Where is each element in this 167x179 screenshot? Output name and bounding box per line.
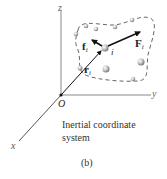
particle: [74, 32, 79, 37]
particle: [130, 18, 135, 23]
system-of-particles-diagram: z y x O Fi fi ri i Inertial coordinate s…: [0, 0, 167, 179]
position-vector-r: [61, 51, 101, 95]
particle: [94, 27, 99, 32]
particle: [138, 59, 145, 66]
position-vector-subscript: i: [89, 69, 91, 77]
particle: [78, 66, 83, 71]
internal-force-vector-f: [92, 40, 102, 46]
y-axis-label: y: [152, 89, 156, 99]
particle-i: [102, 45, 109, 52]
particle: [84, 24, 89, 29]
external-force-symbol: F: [135, 37, 142, 49]
particle: [113, 25, 118, 30]
particle: [103, 66, 110, 73]
particle-i-label: i: [111, 48, 114, 57]
vectors: [61, 32, 140, 95]
diagram-canvas: [0, 0, 167, 179]
external-force-subscript: i: [142, 43, 144, 51]
external-force-label: Fi: [135, 38, 144, 51]
z-axis-label: z: [58, 3, 62, 13]
particle: [131, 77, 136, 82]
subfigure-label: (b): [81, 158, 93, 168]
internal-force-label: fi: [82, 41, 88, 54]
caption-line-1: Inertial coordinate: [62, 120, 136, 130]
internal-force-subscript: i: [86, 46, 88, 54]
x-axis: [19, 95, 61, 141]
caption-line-2: system: [62, 133, 90, 143]
position-vector-label: ri: [84, 64, 91, 77]
x-axis-label: x: [11, 141, 15, 151]
origin-label: O: [58, 99, 65, 109]
